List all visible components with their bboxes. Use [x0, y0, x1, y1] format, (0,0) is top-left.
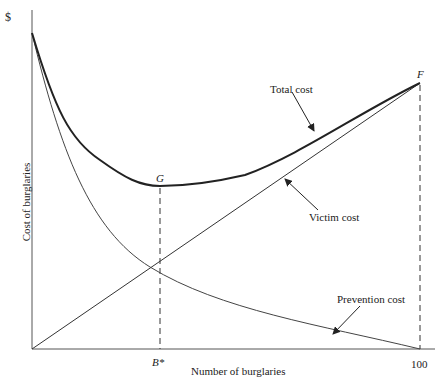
- victim-cost-line: [32, 83, 420, 349]
- victim-cost-arrow: [285, 179, 318, 210]
- total-cost-arrow: [292, 92, 314, 131]
- point-g-label: G: [156, 172, 164, 184]
- victim-cost-label: Victim cost: [309, 211, 359, 223]
- prevention-cost-label: Prevention cost: [337, 293, 405, 305]
- bstar-tick-label: B*: [152, 356, 164, 368]
- hundred-tick-label: 100: [411, 358, 428, 370]
- dollar-sign-label: $: [5, 10, 11, 25]
- total-cost-curve: [32, 33, 420, 186]
- point-f-label: F: [417, 68, 424, 80]
- x-axis-label: Number of burglaries: [191, 365, 286, 377]
- prevention-cost-arrow: [333, 306, 360, 334]
- y-axis-label: Cost of burglaries: [20, 152, 32, 252]
- cost-of-burglaries-chart: [0, 0, 443, 383]
- total-cost-label: Total cost: [270, 83, 313, 95]
